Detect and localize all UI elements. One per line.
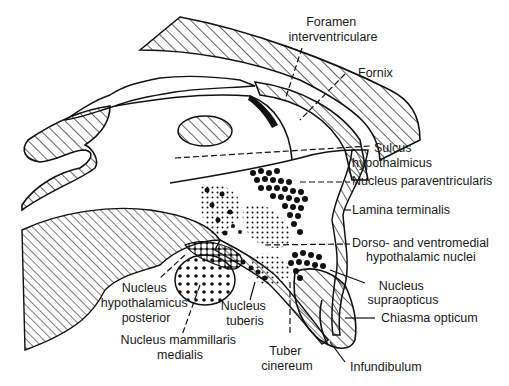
label-tuberis: Nucleus tuberis	[221, 299, 270, 328]
label-fornix: Fornix	[358, 66, 393, 80]
label-chiasma: Chiasma opticum	[381, 311, 478, 325]
interthalamic-adhesion	[178, 116, 232, 146]
label-paraventricularis: Nucleus paraventricularis	[352, 174, 492, 188]
label-sulcus: Sulcus hypothalmicus	[352, 141, 432, 170]
label-mammillaris: Nucleus mammillaris medialis	[121, 333, 240, 362]
ventromedial-nucleus	[243, 204, 292, 248]
label-tuber: Tuber cinereum	[261, 344, 312, 373]
label-lamina: Lamina terminalis	[352, 203, 450, 217]
label-dorso: Dorso- and ventromedial hypothalamic nuc…	[352, 236, 492, 264]
posterior-commissure-fold	[22, 106, 110, 210]
label-supraopticus: Nucleus supraopticus	[368, 279, 439, 307]
hypothalamus-diagram: Foramen interventriculare Fornix Sulcus …	[0, 0, 509, 386]
label-foramen: Foramen interventriculare	[289, 15, 378, 44]
label-infundibulum: Infundibulum	[350, 360, 422, 374]
